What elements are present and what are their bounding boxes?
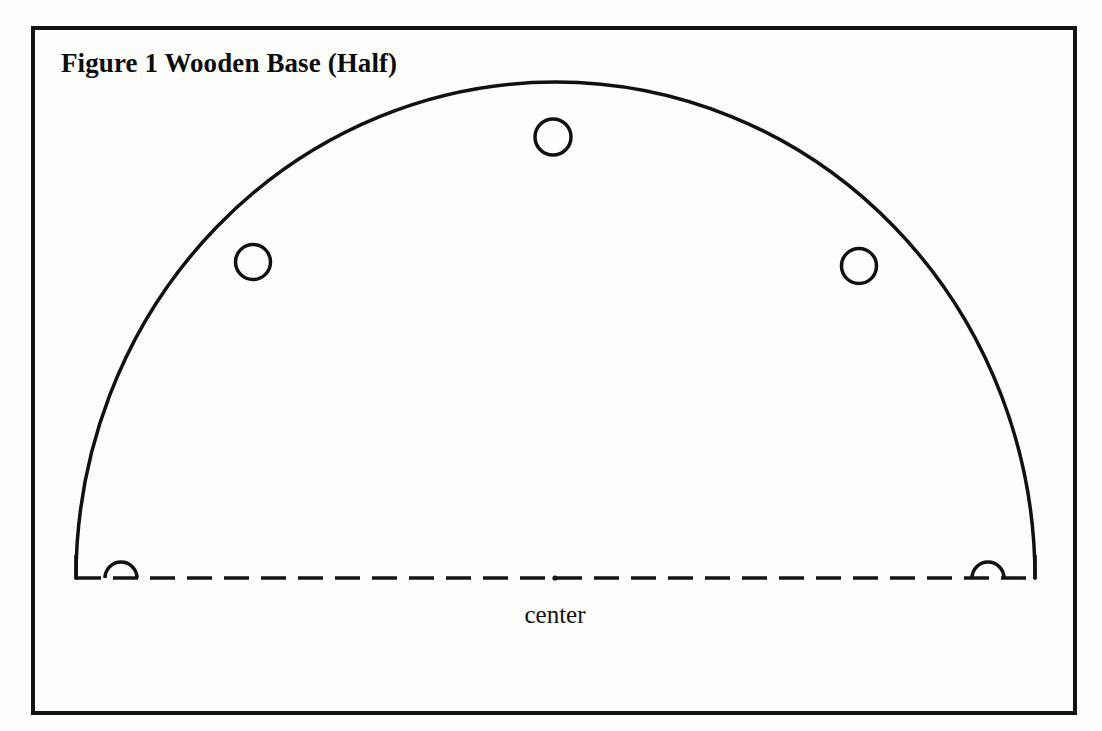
center-line-label: center — [0, 600, 1102, 629]
figure-title: Figure 1 Wooden Base (Half) — [61, 47, 397, 79]
center-midpoint-dot — [552, 575, 557, 580]
figure-page: Figure 1 Wooden Base (Half) center — [0, 0, 1102, 731]
center-line-label-text: center — [524, 601, 585, 628]
